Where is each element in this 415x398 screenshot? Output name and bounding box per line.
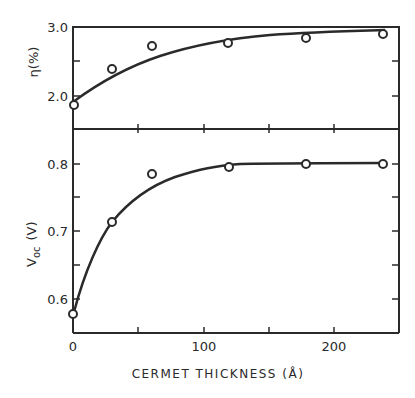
- bottom-ytick-06: 0.6: [47, 292, 68, 307]
- bottom-ytick-07: 0.7: [47, 224, 68, 239]
- top-ytick-3: 3.0: [47, 20, 68, 35]
- x-axis-label: CERMET THICKNESS (Å): [132, 366, 305, 381]
- top-panel-frame: [73, 27, 399, 129]
- chart-figure: 3.0 2.0 η(%): [0, 0, 415, 398]
- top-ytick-2: 2.0: [47, 89, 68, 104]
- xtick-200: 200: [322, 339, 347, 354]
- bottom-data-points: [69, 160, 387, 318]
- svg-text:Voc(V): Voc(V): [24, 221, 42, 267]
- xtick-100: 100: [192, 339, 217, 354]
- top-data-points: [70, 30, 387, 109]
- top-ylabel: η(%): [26, 47, 41, 78]
- bottom-fit-curve: [74, 163, 385, 312]
- bottom-ytick-08: 0.8: [47, 157, 68, 172]
- top-panel: 3.0 2.0 η(%): [26, 20, 399, 133]
- bottom-panel: 0.8 0.7 0.6 Voc(V) 0 100 200 CERMET THIC…: [24, 129, 399, 381]
- bottom-ylabel: Voc(V): [24, 221, 42, 267]
- xtick-0: 0: [69, 339, 77, 354]
